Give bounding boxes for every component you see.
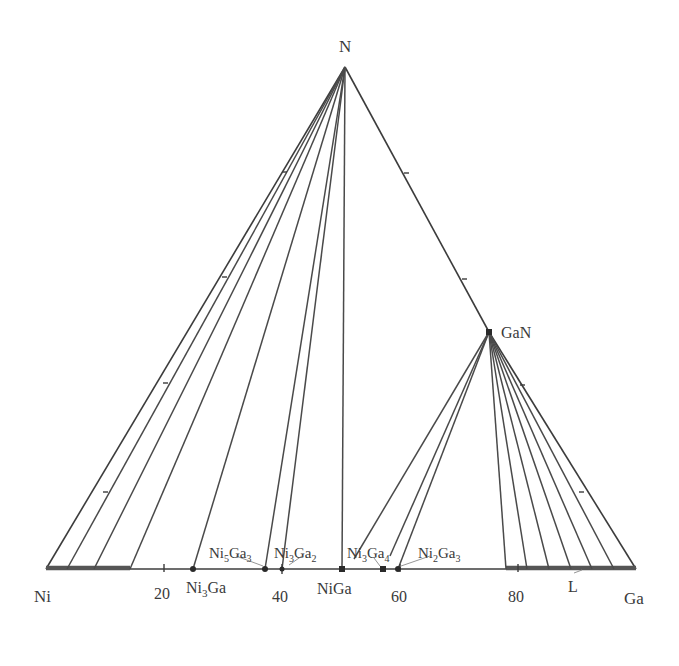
vertex-label-ga: Ga [624,589,644,608]
tick-label-60: 60 [391,588,407,605]
tie-lines-n [67,67,345,569]
ni3ga-marker [190,566,196,572]
phase-label-ni3ga: Ni3Ga [186,579,226,599]
phase-label-ni2ga3: Ni2Ga3 [418,545,461,564]
gan-marker [486,329,492,335]
ni2ga3-marker [395,566,401,572]
vertex-label-n: N [339,37,351,56]
tick-label-40: 40 [272,588,288,605]
vertex-label-ni: Ni [34,587,51,606]
ni3ga4-marker [380,566,386,572]
compound-label-gan: GaN [501,324,532,341]
phase-label-ni3ga4: Ni3Ga4 [347,545,390,564]
edge-n-gan [345,67,489,332]
tick-label-80: 80 [508,588,524,605]
phase-markers [190,329,492,572]
tie-lines-gan [354,332,614,569]
ni3ga2-marker [280,567,285,572]
niga-marker [339,566,345,572]
tick-label-20: 20 [154,585,170,602]
edge-ni-n [46,67,345,569]
left-edge-ticks [103,172,287,492]
phase-label-niga: NiGa [317,580,352,597]
ni5ga3-marker [262,566,268,572]
phase-label-ni5ga3: Ni5Ga3 [209,545,252,564]
edge-gan-ga [489,332,636,569]
region-label-l: L [568,578,578,595]
right-edge-ticks [404,173,584,492]
ternary-diagram: N Ni Ga GaN L 20 40 60 80 Ni3Ga Ni5Ga3 N… [0,0,679,666]
